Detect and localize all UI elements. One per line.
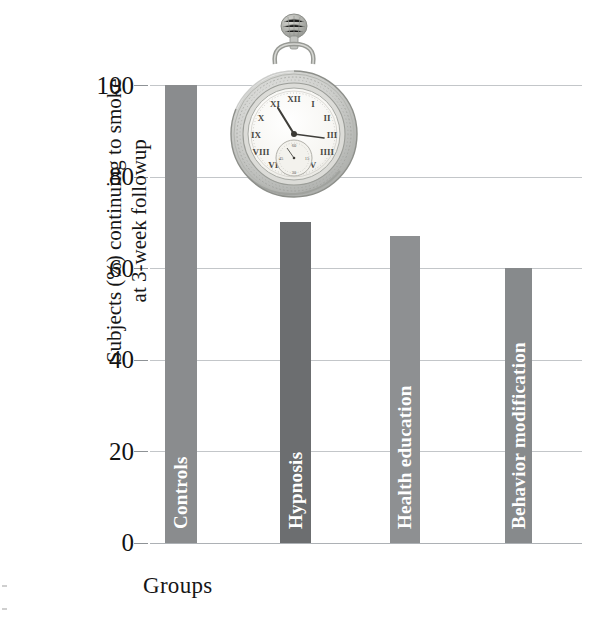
y-axis-title: Subjects (%) continuing to smoke at 3-we… (102, 56, 152, 386)
bar-behavior-modification[interactable]: Behavior modification (505, 268, 532, 543)
gridline-0-baseline (150, 543, 582, 544)
bar-controls[interactable]: Controls (165, 85, 197, 543)
gridline-100 (150, 85, 582, 86)
scan-artifact-mark (2, 608, 7, 610)
y-tick-label-0: 0 (60, 530, 134, 555)
tick-stub-20 (134, 451, 148, 452)
plot-area: Controls Hypnosis Health education Behav… (150, 85, 582, 543)
bar-label-hypnosis: Hypnosis (285, 452, 307, 529)
bar-chart-figure: 100 80 60 40 20 0 Controls Hypnosis (0, 0, 603, 628)
bar-label-controls: Controls (170, 456, 192, 529)
bar-hypnosis[interactable]: Hypnosis (280, 222, 311, 543)
y-axis-title-line2: at 3-week followup (127, 56, 152, 386)
y-tick-label-20: 20 (60, 439, 134, 464)
gridline-80 (150, 177, 582, 178)
y-axis-title-line1: Subjects (%) continuing to smoke (102, 56, 127, 386)
bar-label-behavior-modification: Behavior modification (508, 342, 530, 529)
bar-label-health-education: Health education (394, 385, 416, 529)
tick-stub-0 (134, 543, 148, 544)
bar-health-education[interactable]: Health education (390, 236, 420, 543)
scan-artifact-mark (2, 585, 7, 587)
x-axis-title: Groups (143, 573, 213, 599)
